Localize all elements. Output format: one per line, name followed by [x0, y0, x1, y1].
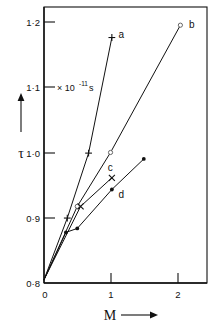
y-tick-label-0-8: 0·8: [26, 278, 40, 289]
y-tick-label-1-0: 1·0: [26, 148, 40, 159]
marker-b-2: [108, 150, 112, 154]
x-axis-title-group: M: [104, 308, 158, 323]
x-tick-label-2: 2: [175, 289, 180, 300]
series-a: [44, 34, 115, 280]
curve-label-a: a: [119, 29, 125, 40]
series-c: [44, 175, 115, 280]
curve-label-c: c: [108, 162, 113, 173]
marker-d-4: [142, 157, 146, 161]
curve-label-d: d: [119, 189, 125, 200]
x-tick-label-0: 0: [42, 289, 47, 300]
series-label-layer: abcd: [108, 19, 195, 200]
y-tick-label-0-9: 0·9: [26, 213, 40, 224]
curve-d: [44, 159, 144, 280]
marker-b-3: [178, 23, 182, 27]
marker-d-1: [64, 230, 68, 234]
y-unit-suffix: s: [89, 83, 94, 93]
y-tick-label-1-2: 1·2: [26, 17, 40, 28]
chart-canvas: 1·2 1·1 1·0 0·9 0·8 0 1 2 × 10 -11 s τ M: [0, 0, 221, 325]
y-tick-label-1-1: 1·1: [26, 82, 40, 93]
y-unit-annotation: × 10 -11 s: [57, 80, 94, 93]
x-axis-title: M: [104, 308, 117, 323]
figure-container: 1·2 1·1 1·0 0·9 0·8 0 1 2 × 10 -11 s τ M: [0, 0, 221, 325]
series-b: [44, 23, 182, 280]
x-axis-arrow-head-icon: [150, 312, 158, 319]
data-series-layer: [44, 23, 182, 280]
y-axis-title-group: τ: [18, 93, 25, 161]
marker-d-3: [110, 188, 114, 192]
y-unit-exponent: -11: [79, 80, 88, 87]
plot-frame: [44, 7, 207, 283]
series-d: [44, 157, 146, 280]
y-unit-mantissa: × 10: [57, 83, 75, 93]
x-tick-label-1: 1: [108, 289, 113, 300]
y-axis-title: τ: [18, 146, 24, 161]
marker-d-2: [75, 227, 79, 231]
y-axis-ticks: [44, 22, 55, 218]
x-axis-ticks: [111, 273, 178, 283]
curve-a: [44, 38, 112, 280]
curve-label-b: b: [189, 19, 195, 30]
y-axis-arrow-head-icon: [18, 93, 25, 101]
